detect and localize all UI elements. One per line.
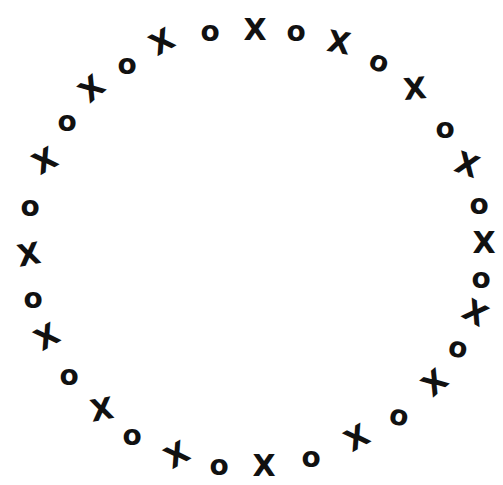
o-mark: o	[301, 444, 320, 472]
x-mark: X	[29, 318, 64, 356]
o-mark: o	[209, 452, 228, 480]
o-mark: o	[471, 265, 490, 293]
o-mark: o	[435, 115, 454, 143]
x-mark: X	[339, 419, 374, 457]
o-mark: o	[286, 18, 305, 46]
x-mark: X	[457, 294, 492, 332]
o-mark: o	[200, 18, 219, 46]
x-mark: X	[15, 238, 43, 272]
x-mark: X	[159, 436, 194, 474]
x-mark: X	[416, 364, 453, 402]
o-mark: o	[57, 108, 76, 136]
x-mark: X	[73, 70, 110, 108]
o-mark: o	[387, 401, 411, 432]
o-mark: o	[469, 191, 488, 219]
o-mark: o	[117, 51, 136, 79]
o-mark: o	[446, 333, 470, 364]
o-mark: o	[365, 46, 393, 79]
x-mark: X	[451, 147, 483, 183]
x-mark: X	[88, 393, 116, 427]
x-mark: X	[402, 73, 428, 105]
o-mark: o	[20, 193, 39, 221]
x-mark: X	[243, 15, 266, 45]
x-mark: X	[252, 451, 275, 481]
x-mark: X	[27, 142, 62, 180]
x-mark: X	[144, 23, 179, 61]
x-mark: X	[472, 228, 495, 258]
x-mark: X	[325, 26, 353, 60]
o-mark: o	[122, 422, 141, 450]
o-mark: o	[59, 362, 78, 390]
o-mark: o	[23, 285, 42, 313]
